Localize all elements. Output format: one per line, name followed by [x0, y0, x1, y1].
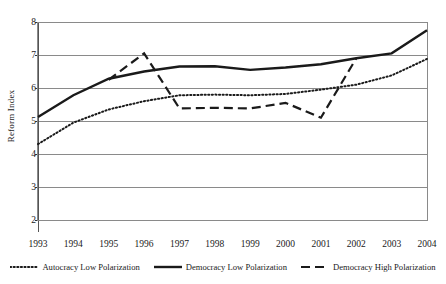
x-axis-tick-label: 2003 — [382, 238, 401, 250]
data-series — [38, 30, 427, 144]
x-axis-tick-label: 1998 — [205, 238, 224, 250]
chart-legend: Autocracy Low PolarizationDemocracy Low … — [0, 262, 446, 272]
legend-item: Democracy Low Polarization — [154, 262, 287, 272]
x-axis-tick-labels: 1993199419951996199719981999200020012002… — [0, 238, 446, 254]
legend-label: Autocracy Low Polarization — [42, 262, 139, 272]
series-line — [109, 53, 357, 117]
series-line — [38, 30, 427, 117]
legend-item: Autocracy Low Polarization — [10, 262, 139, 272]
x-axis-tick-label: 1997 — [170, 238, 189, 250]
legend-swatch-icon — [10, 263, 38, 271]
legend-swatch-icon — [154, 263, 182, 271]
chart-container: Reform Index 2345678 1993199419951996199… — [0, 0, 446, 284]
x-axis-tick-label: 1995 — [99, 238, 118, 250]
plot-area — [0, 0, 446, 240]
legend-label: Democracy High Polarization — [333, 262, 436, 272]
x-axis-tick-label: 2002 — [347, 238, 366, 250]
x-axis-tick-label: 2000 — [276, 238, 295, 250]
legend-label: Democracy Low Polarization — [186, 262, 287, 272]
legend-item: Democracy High Polarization — [301, 262, 436, 272]
x-axis-tick-label: 2004 — [418, 238, 437, 250]
x-axis-tick-label: 1996 — [135, 238, 154, 250]
x-axis-tick-label: 2001 — [311, 238, 330, 250]
x-axis-tick-label: 1999 — [241, 238, 260, 250]
legend-swatch-icon — [301, 263, 329, 271]
grid-lines — [35, 22, 427, 232]
x-axis-tick-label: 1993 — [29, 238, 48, 250]
series-line — [38, 59, 427, 144]
x-axis-tick-label: 1994 — [64, 238, 83, 250]
